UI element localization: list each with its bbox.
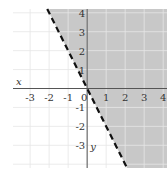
y-tick-label: -2	[75, 121, 85, 132]
y-tick-label: -3	[75, 140, 85, 151]
x-axis-label: x	[16, 76, 22, 87]
y-axis-label: y	[89, 141, 96, 152]
y-tick-label: 1	[79, 65, 85, 76]
x-tick-label: 2	[122, 92, 128, 103]
y-tick-label: 4	[79, 8, 85, 19]
x-tick-label: 1	[103, 92, 109, 103]
x-tick-label: 3	[141, 92, 147, 103]
x-tick-label: -3	[25, 92, 35, 103]
x-tick-label: -2	[44, 92, 54, 103]
y-tick-label: 2	[79, 46, 85, 57]
inequality-graph: -3-2-101234-3-2-11234xy	[0, 0, 167, 177]
x-tick-label: 0	[81, 92, 87, 103]
x-tick-label: -1	[63, 92, 73, 103]
x-tick-label: 4	[160, 92, 166, 103]
y-tick-label: 3	[79, 27, 85, 38]
y-tick-label: -1	[75, 102, 85, 113]
